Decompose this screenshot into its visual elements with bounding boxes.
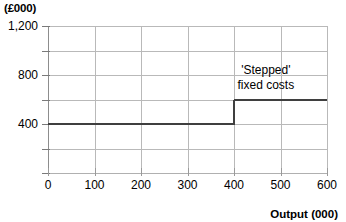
gridline-vertical: [188, 26, 189, 173]
x-axis-tick: [188, 168, 189, 176]
x-axis-tick: [234, 168, 235, 176]
x-axis-tick: [281, 168, 282, 176]
y-axis-tick-label: 800: [18, 68, 38, 82]
y-axis-tick: [42, 51, 50, 52]
y-axis-tick-label: 400: [18, 117, 38, 131]
gridline-vertical: [95, 26, 96, 173]
series-segment-vertical: [233, 100, 235, 126]
x-axis-tick-label: 600: [317, 178, 337, 192]
series-segment-horizontal: [48, 123, 234, 125]
stepped-fixed-costs-chart: (£000) 1,200800400 0100200300400500600 '…: [0, 0, 346, 222]
y-axis-tick: [42, 149, 50, 150]
y-axis-unit-label: (£000): [4, 2, 36, 14]
x-axis-tick-label: 300: [177, 178, 197, 192]
y-axis-tick: [42, 75, 50, 76]
y-axis-tick-label: 1,200: [8, 19, 38, 33]
x-axis-tick-label: 500: [270, 178, 290, 192]
x-axis-tick: [95, 168, 96, 176]
x-axis-tick-label: 100: [84, 178, 104, 192]
x-axis-tick-label: 200: [131, 178, 151, 192]
x-axis-tick-label: 400: [224, 178, 244, 192]
stepped-fixed-costs-annotation: 'Stepped' fixed costs: [238, 63, 295, 93]
series-segment-horizontal: [234, 99, 327, 101]
x-axis-title: Output (000): [270, 208, 338, 220]
x-axis-tick: [327, 168, 328, 176]
x-axis-tick: [141, 168, 142, 176]
x-axis-tick-label: 0: [45, 178, 52, 192]
gridline-vertical: [141, 26, 142, 173]
x-axis-tick: [48, 168, 49, 176]
y-axis-tick: [42, 26, 50, 27]
gridline-vertical: [327, 26, 328, 173]
y-axis-tick: [42, 100, 50, 101]
annotation-line-1: 'Stepped': [238, 63, 295, 78]
annotation-line-2: fixed costs: [238, 78, 295, 93]
